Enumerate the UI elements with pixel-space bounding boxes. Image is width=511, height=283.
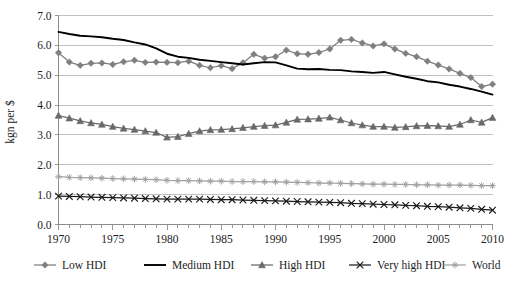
data-point-marker xyxy=(326,180,333,187)
legend-item-high-hdi[interactable]: High HDI xyxy=(251,259,325,272)
data-point-marker xyxy=(153,59,159,65)
data-point-marker xyxy=(142,59,148,65)
legend-item-low-hdi[interactable]: Low HDI xyxy=(34,259,107,271)
data-point-marker xyxy=(175,59,181,65)
data-point-marker xyxy=(109,175,116,182)
legend-item-medium-hdi[interactable]: Medium HDI xyxy=(144,259,234,271)
y-axis-title: kgn per $ xyxy=(4,100,17,144)
data-point-marker xyxy=(66,174,73,181)
data-point-marker xyxy=(88,175,95,182)
data-point-marker xyxy=(131,176,138,183)
data-point-marker xyxy=(489,81,495,87)
data-point-marker xyxy=(272,179,279,186)
chart-container: 0.01.02.03.04.05.06.07.0 197019751980198… xyxy=(0,0,511,283)
data-point-marker xyxy=(489,114,496,120)
y-tick-label: 2.0 xyxy=(37,159,52,171)
data-point-marker xyxy=(452,262,459,269)
data-point-marker xyxy=(403,50,409,56)
legend-item-very-high-hdi[interactable]: Very high HDI xyxy=(349,259,446,272)
data-point-marker xyxy=(489,182,496,189)
legend-label: High HDI xyxy=(279,259,325,272)
data-point-marker xyxy=(207,178,214,185)
data-point-marker xyxy=(88,60,94,66)
legend-label: Medium HDI xyxy=(172,259,234,271)
data-point-marker xyxy=(99,60,105,66)
x-tick-label: 1975 xyxy=(101,233,124,245)
data-point-marker xyxy=(261,55,267,61)
data-point-marker xyxy=(153,176,160,183)
x-tick-label: 1970 xyxy=(47,233,70,245)
data-point-marker xyxy=(164,59,170,65)
data-point-marker xyxy=(457,70,463,76)
legend-label: Very high HDI xyxy=(377,259,446,272)
data-point-marker xyxy=(381,181,388,188)
data-point-marker xyxy=(305,179,312,186)
data-point-marker xyxy=(55,112,62,118)
data-point-marker xyxy=(468,182,475,189)
y-tick-label: 7.0 xyxy=(37,10,52,22)
data-point-marker xyxy=(55,173,62,180)
axes xyxy=(59,16,493,225)
data-point-marker xyxy=(424,181,431,188)
x-tick-label: 2010 xyxy=(481,233,504,245)
x-tick-label: 1995 xyxy=(318,233,341,245)
data-point-marker xyxy=(316,49,322,55)
data-point-marker xyxy=(164,177,171,184)
data-point-marker xyxy=(457,182,464,189)
data-point-marker xyxy=(435,62,441,68)
y-axis-tick-labels: 0.01.02.03.04.05.06.07.0 xyxy=(37,10,52,231)
x-tick-label: 2000 xyxy=(373,233,396,245)
data-point-marker xyxy=(402,181,409,188)
data-point-marker xyxy=(196,62,202,68)
x-tick-label: 1990 xyxy=(264,233,287,245)
data-point-marker xyxy=(446,66,452,72)
y-tick-label: 3.0 xyxy=(37,129,52,141)
data-point-marker xyxy=(218,62,224,68)
data-point-marker xyxy=(370,181,377,188)
x-tick-label: 1980 xyxy=(156,233,179,245)
data-point-marker xyxy=(392,181,399,188)
data-point-marker xyxy=(359,181,366,188)
y-tick-label: 1.0 xyxy=(37,189,52,201)
data-point-marker xyxy=(478,182,485,189)
gridlines xyxy=(59,16,493,195)
data-series xyxy=(55,32,496,214)
series-high-hdi xyxy=(55,112,496,140)
data-point-marker xyxy=(120,59,126,65)
data-point-marker xyxy=(392,46,398,52)
y-axis-title-text: kgn per $ xyxy=(4,100,17,144)
legend-item-world[interactable]: World xyxy=(444,259,501,271)
data-point-marker xyxy=(435,182,442,189)
data-point-marker xyxy=(348,36,354,42)
data-point-marker xyxy=(77,62,83,68)
data-point-marker xyxy=(131,57,137,63)
data-point-marker xyxy=(42,262,48,268)
data-point-marker xyxy=(424,58,430,64)
data-point-marker xyxy=(110,61,116,67)
data-point-marker xyxy=(370,43,376,49)
data-point-marker xyxy=(218,178,225,185)
x-axis-tick-labels: 197019751980198519901995200020052010 xyxy=(47,233,504,245)
y-tick-label: 6.0 xyxy=(37,39,52,51)
data-point-marker xyxy=(283,47,289,53)
data-point-marker xyxy=(413,54,419,60)
data-point-marker xyxy=(305,51,311,57)
x-tick-label: 1985 xyxy=(210,233,233,245)
legend-label: World xyxy=(472,259,501,271)
data-point-marker xyxy=(120,176,127,183)
data-point-marker xyxy=(413,181,420,188)
data-point-marker xyxy=(316,180,323,187)
data-point-marker xyxy=(175,177,182,184)
data-point-marker xyxy=(348,180,355,187)
data-point-marker xyxy=(261,179,268,186)
x-tick-label: 2005 xyxy=(427,233,450,245)
data-point-marker xyxy=(99,175,106,182)
data-point-marker xyxy=(207,65,213,71)
data-point-marker xyxy=(196,178,203,185)
y-tick-label: 4.0 xyxy=(37,99,52,111)
data-point-marker xyxy=(272,54,278,60)
data-point-marker xyxy=(467,117,474,123)
data-point-marker xyxy=(185,177,192,184)
y-tick-label: 0.0 xyxy=(37,219,52,231)
chart-legend: Low HDIMedium HDIHigh HDIVery high HDIWo… xyxy=(34,259,501,272)
